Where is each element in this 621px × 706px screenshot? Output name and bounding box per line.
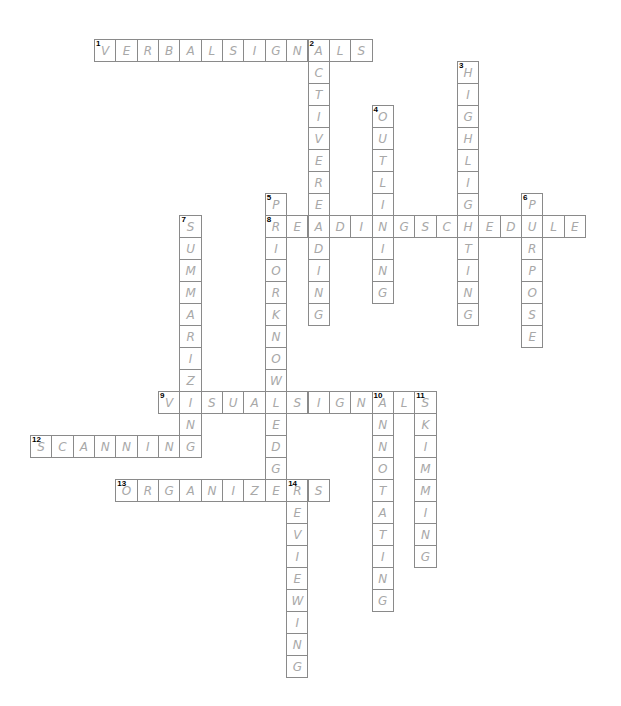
crossword-cell[interactable]: S — [308, 479, 330, 502]
crossword-cell[interactable]: N — [94, 435, 116, 458]
crossword-cell[interactable]: E — [115, 39, 137, 62]
crossword-cell[interactable]: U — [179, 237, 201, 260]
crossword-cell[interactable]: N — [179, 413, 201, 436]
crossword-cell[interactable]: R — [137, 39, 159, 62]
crossword-cell[interactable]: S — [286, 391, 308, 414]
crossword-cell[interactable]: G — [308, 303, 330, 326]
crossword-cell[interactable]: H — [457, 127, 479, 150]
crossword-cell[interactable]: N — [265, 325, 287, 348]
crossword-cell[interactable]: G — [265, 39, 287, 62]
crossword-cell[interactable]: L — [372, 171, 394, 194]
crossword-cell[interactable]: 12S — [30, 435, 52, 458]
crossword-cell[interactable]: T — [457, 237, 479, 260]
crossword-cell[interactable]: G — [158, 479, 180, 502]
crossword-cell[interactable]: M — [414, 479, 436, 502]
crossword-cell[interactable]: L — [329, 39, 351, 62]
crossword-cell[interactable]: I — [414, 501, 436, 524]
crossword-cell[interactable]: 2A — [308, 39, 330, 62]
crossword-cell[interactable]: U — [521, 215, 543, 238]
crossword-cell[interactable]: H — [457, 215, 479, 238]
crossword-cell[interactable]: N — [372, 215, 394, 238]
crossword-cell[interactable]: E — [564, 215, 586, 238]
crossword-cell[interactable]: S — [201, 391, 223, 414]
crossword-cell[interactable]: I — [137, 435, 159, 458]
crossword-cell[interactable]: E — [265, 479, 287, 502]
crossword-cell[interactable]: G — [457, 303, 479, 326]
crossword-cell[interactable]: 10A — [372, 391, 394, 414]
crossword-cell[interactable]: O — [265, 347, 287, 370]
crossword-cell[interactable]: A — [243, 391, 265, 414]
crossword-cell[interactable]: U — [372, 127, 394, 150]
crossword-cell[interactable]: R — [137, 479, 159, 502]
crossword-cell[interactable]: I — [243, 39, 265, 62]
crossword-cell[interactable]: 6P — [521, 193, 543, 216]
crossword-cell[interactable]: G — [265, 457, 287, 480]
crossword-cell[interactable]: M — [179, 259, 201, 282]
crossword-cell[interactable]: A — [73, 435, 95, 458]
crossword-cell[interactable]: I — [179, 347, 201, 370]
crossword-cell[interactable]: T — [372, 149, 394, 172]
crossword-cell[interactable]: 11S — [414, 391, 436, 414]
crossword-cell[interactable]: N — [414, 523, 436, 546]
crossword-cell[interactable]: N — [457, 281, 479, 304]
crossword-cell[interactable]: C — [308, 61, 330, 84]
crossword-cell[interactable]: I — [350, 215, 372, 238]
crossword-cell[interactable]: I — [308, 259, 330, 282]
crossword-cell[interactable]: E — [265, 413, 287, 436]
crossword-cell[interactable]: K — [265, 303, 287, 326]
crossword-cell[interactable]: I — [179, 391, 201, 414]
crossword-cell[interactable]: L — [393, 391, 415, 414]
crossword-cell[interactable]: R — [179, 325, 201, 348]
crossword-cell[interactable]: R — [308, 171, 330, 194]
crossword-cell[interactable]: P — [521, 259, 543, 282]
crossword-cell[interactable]: I — [222, 479, 244, 502]
crossword-cell[interactable]: T — [372, 523, 394, 546]
crossword-cell[interactable]: G — [286, 655, 308, 678]
crossword-cell[interactable]: L — [457, 149, 479, 172]
crossword-cell[interactable]: 14R — [286, 479, 308, 502]
crossword-cell[interactable]: 5P — [265, 193, 287, 216]
crossword-cell[interactable]: I — [308, 105, 330, 128]
crossword-cell[interactable]: E — [286, 567, 308, 590]
crossword-cell[interactable]: D — [500, 215, 522, 238]
crossword-cell[interactable]: 1V — [94, 39, 116, 62]
crossword-cell[interactable]: I — [308, 391, 330, 414]
crossword-cell[interactable]: 8R — [265, 215, 287, 238]
crossword-cell[interactable]: R — [521, 237, 543, 260]
crossword-cell[interactable]: N — [286, 39, 308, 62]
crossword-cell[interactable]: N — [372, 567, 394, 590]
crossword-cell[interactable]: I — [372, 237, 394, 260]
crossword-cell[interactable]: 13O — [115, 479, 137, 502]
crossword-cell[interactable]: Z — [179, 369, 201, 392]
crossword-cell[interactable]: S — [350, 39, 372, 62]
crossword-cell[interactable]: G — [372, 589, 394, 612]
crossword-cell[interactable]: S — [222, 39, 244, 62]
crossword-cell[interactable]: B — [158, 39, 180, 62]
crossword-cell[interactable]: 7S — [179, 215, 201, 238]
crossword-cell[interactable]: I — [286, 545, 308, 568]
crossword-cell[interactable]: N — [350, 391, 372, 414]
crossword-cell[interactable]: 4O — [372, 105, 394, 128]
crossword-cell[interactable]: E — [308, 149, 330, 172]
crossword-cell[interactable]: S — [521, 303, 543, 326]
crossword-cell[interactable]: D — [329, 215, 351, 238]
crossword-cell[interactable]: M — [414, 457, 436, 480]
crossword-cell[interactable]: G — [372, 281, 394, 304]
crossword-cell[interactable]: I — [265, 237, 287, 260]
crossword-cell[interactable]: A — [179, 479, 201, 502]
crossword-cell[interactable]: E — [308, 193, 330, 216]
crossword-cell[interactable]: A — [179, 39, 201, 62]
crossword-cell[interactable]: U — [222, 391, 244, 414]
crossword-cell[interactable]: R — [265, 281, 287, 304]
crossword-cell[interactable]: N — [115, 435, 137, 458]
crossword-cell[interactable]: I — [457, 83, 479, 106]
crossword-cell[interactable]: N — [372, 413, 394, 436]
crossword-cell[interactable]: 3H — [457, 61, 479, 84]
crossword-cell[interactable]: I — [372, 193, 394, 216]
crossword-cell[interactable]: T — [372, 479, 394, 502]
crossword-cell[interactable]: I — [372, 545, 394, 568]
crossword-cell[interactable]: Z — [243, 479, 265, 502]
crossword-cell[interactable]: N — [308, 281, 330, 304]
crossword-cell[interactable]: I — [457, 259, 479, 282]
crossword-cell[interactable]: N — [372, 259, 394, 282]
